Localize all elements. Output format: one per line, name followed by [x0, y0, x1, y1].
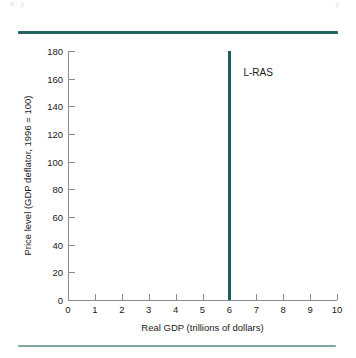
x-tick-label: 0 [65, 304, 70, 315]
y-tick-mark [69, 106, 75, 107]
x-tick-mark [283, 294, 284, 300]
x-tick-mark [122, 294, 123, 300]
x-tick-label: 1 [92, 304, 97, 315]
x-tick-mark [203, 294, 204, 300]
x-tick-label: 6 [227, 304, 232, 315]
plot-area: 020406080100120140160180 012345678910 L-… [68, 51, 337, 300]
y-tick-label: 120 [47, 129, 63, 140]
y-tick-label: 60 [52, 212, 63, 223]
y-tick-label: 40 [52, 239, 63, 250]
y-tick-label: 80 [52, 184, 63, 195]
lras-vertical-line [228, 51, 231, 300]
y-axis-spine [68, 51, 69, 300]
y-tick-label: 180 [47, 46, 63, 57]
y-tick-mark [69, 79, 75, 80]
x-tick-label: 5 [200, 304, 205, 315]
y-tick-mark [69, 189, 75, 190]
x-tick-label: 9 [307, 304, 312, 315]
x-axis-title: Real GDP (trillions of dollars) [68, 322, 337, 333]
y-axis-title: Price level (GDP deflator, 1996 = 100) [22, 51, 36, 300]
y-tick-mark [69, 300, 75, 301]
lras-chart: Price level (GDP deflator, 1996 = 100) R… [0, 0, 356, 358]
x-tick-label: 8 [281, 304, 286, 315]
y-tick-mark [69, 51, 75, 52]
y-tick-mark [69, 134, 75, 135]
x-tick-mark [95, 294, 96, 300]
x-tick-mark [310, 294, 311, 300]
x-tick-label: 7 [254, 304, 259, 315]
x-tick-mark [176, 294, 177, 300]
y-tick-mark [69, 162, 75, 163]
x-tick-mark [149, 294, 150, 300]
y-tick-label: 20 [52, 267, 63, 278]
y-tick-mark [69, 245, 75, 246]
lras-series-label: L-RAS [243, 67, 272, 78]
x-tick-label: 3 [146, 304, 151, 315]
y-tick-label: 140 [47, 101, 63, 112]
y-tick-label: 0 [58, 295, 63, 306]
x-tick-mark [256, 294, 257, 300]
x-tick-label: 4 [173, 304, 178, 315]
y-tick-label: 100 [47, 156, 63, 167]
x-axis-spine [68, 300, 337, 301]
x-tick-label: 10 [332, 304, 343, 315]
y-tick-label: 160 [47, 73, 63, 84]
x-tick-label: 2 [119, 304, 124, 315]
x-tick-mark [337, 294, 338, 300]
y-tick-mark [69, 217, 75, 218]
y-tick-mark [69, 272, 75, 273]
